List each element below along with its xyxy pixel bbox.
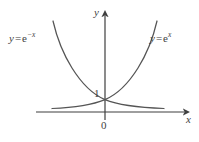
x-axis-label: x	[186, 114, 191, 125]
origin-label: 0	[101, 120, 107, 131]
curve-exp-neg-x	[53, 21, 164, 109]
y-intercept-tick-label: 1	[94, 88, 100, 99]
curve-label-left-equals: =	[14, 32, 22, 44]
curve-label-right-exponent: x	[168, 30, 171, 39]
plot-canvas	[0, 0, 199, 142]
curve-label-exp-neg-x: y=e−x	[9, 33, 35, 44]
curve-label-right-equals: =	[155, 32, 163, 44]
curve-label-exp-x: y=ex	[150, 33, 171, 44]
curve-label-left-exponent: −x	[27, 30, 35, 39]
y-axis-label: y	[94, 7, 99, 18]
exponential-functions-figure: y=e−x y=ex y x 1 0	[0, 0, 199, 142]
